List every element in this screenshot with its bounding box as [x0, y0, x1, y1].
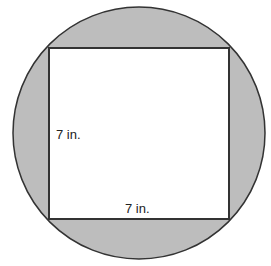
diagram-canvas: [0, 0, 271, 266]
label-side-bottom: 7 in.: [125, 201, 150, 216]
label-side-left: 7 in.: [56, 127, 81, 142]
